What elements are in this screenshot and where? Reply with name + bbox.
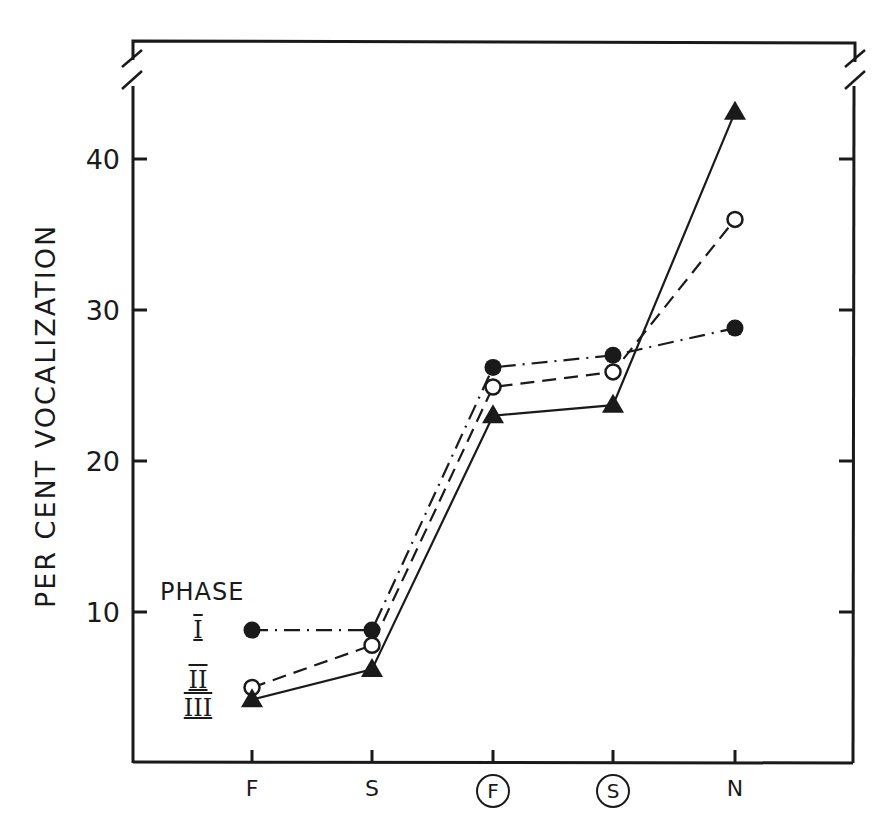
filled-circle-marker (485, 359, 502, 376)
y-tick-label: 10 (60, 597, 120, 628)
y-tick-label: 20 (60, 446, 120, 477)
open-circle-marker (606, 364, 621, 379)
filled-triangle-marker (361, 658, 383, 677)
x-tick-label: F (476, 774, 510, 808)
filled-circle-marker (364, 622, 381, 639)
legend-entry-phase-3: III (184, 694, 212, 722)
open-circle-marker (728, 212, 743, 227)
plot-frame (122, 41, 865, 763)
legend-entry-phase-2: II (189, 666, 208, 694)
legend-entry-phase-1: I (193, 616, 202, 644)
x-axis (133, 762, 853, 763)
series-markers (241, 101, 746, 707)
x-tick-label: S (365, 772, 379, 806)
x-tick-label: S (596, 774, 630, 808)
open-circle-marker (365, 638, 380, 653)
axis-ticks (133, 159, 853, 762)
x-tick-label: F (246, 772, 259, 806)
x-tick-label: N (727, 772, 743, 806)
series-line-phase-II (252, 219, 735, 687)
filled-triangle-marker (602, 394, 624, 413)
open-circle-marker (486, 380, 501, 395)
filled-circle-marker (605, 347, 622, 364)
filled-triangle-marker (482, 404, 504, 423)
filled-circle-marker (244, 622, 261, 639)
legend-title: PHASE (160, 578, 244, 606)
y-axis-title: PER CENT VOCALIZATION (30, 224, 61, 608)
right-axis (853, 86, 854, 763)
line-chart (0, 0, 895, 832)
filled-circle-marker (727, 320, 744, 337)
y-tick-label: 30 (60, 295, 120, 326)
y-tick-label: 40 (60, 144, 120, 175)
filled-triangle-marker (724, 101, 746, 120)
frame-top (133, 41, 855, 62)
